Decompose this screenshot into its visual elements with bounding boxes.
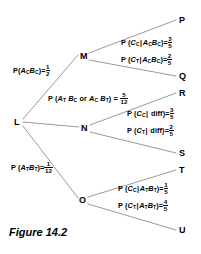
subscript-C: C: [74, 97, 78, 103]
symbol-B: B: [151, 55, 156, 64]
conditional-bar: |: [146, 109, 149, 118]
subscript-T: T: [26, 166, 29, 172]
node-T: T: [179, 166, 185, 175]
figure-caption-text: Figure 14.2: [9, 226, 67, 238]
node-O-label: O: [79, 195, 86, 205]
subscript-C: C: [133, 187, 137, 193]
prob-label-p-at-bt: P (ATBT)=112: [11, 161, 53, 175]
subscript-T: T: [145, 204, 148, 210]
fraction-denominator: 5: [169, 131, 174, 137]
subscript-C: C: [94, 97, 98, 103]
subscript-C: C: [26, 69, 30, 75]
fraction: 25: [167, 53, 172, 67]
symbol-B: B: [68, 94, 73, 103]
prob-prefix: P: [127, 126, 132, 135]
fraction-denominator: 12: [120, 99, 128, 105]
prob-label-p-cc-given-diff: P (CC| diff)=35: [127, 107, 174, 121]
diff-keyword: diff: [151, 109, 163, 118]
node-M: M: [80, 52, 88, 61]
subscript-T: T: [142, 129, 145, 135]
node-N: N: [81, 124, 88, 133]
fraction-denominator: 12: [44, 168, 52, 174]
node-R: R: [179, 89, 186, 98]
prob-prefix: P: [11, 163, 16, 172]
edge-L-N: [23, 122, 79, 127]
or-keyword: or: [79, 94, 87, 103]
subscript-C: C: [142, 112, 146, 118]
fraction: 25: [169, 124, 174, 138]
prob-label-p-cc-given-at-bt: P (CC|ATBT)=15: [118, 182, 168, 196]
fraction: 35: [168, 36, 173, 50]
subscript-C: C: [148, 41, 152, 47]
node-N-label: N: [81, 123, 88, 133]
conditional-bar: |: [145, 126, 148, 135]
node-U-label: U: [179, 225, 186, 235]
subscript-T: T: [136, 58, 139, 64]
fraction-denominator: 5: [163, 206, 168, 212]
node-L-label: L: [14, 117, 20, 127]
prob-label-p-cc-given-ac-bc: P (CC|ACBC)=35: [121, 36, 172, 50]
node-S-label: S: [179, 148, 185, 158]
fraction-denominator: 5: [168, 43, 173, 49]
subscript-C: C: [157, 58, 161, 64]
subscript-C: C: [136, 41, 140, 47]
subscript-T: T: [63, 97, 66, 103]
equals-sign: =: [114, 94, 118, 103]
prob-prefix: P: [118, 201, 123, 210]
node-O: O: [79, 196, 86, 205]
prob-prefix: P: [118, 184, 123, 193]
fraction-denominator: 5: [164, 189, 169, 195]
prob-prefix: P: [127, 109, 132, 118]
node-P-label: P: [179, 15, 185, 25]
symbol-A: A: [139, 201, 144, 210]
prob-prefix: P: [121, 55, 126, 64]
node-R-label: R: [179, 88, 186, 98]
prob-label-p-ct-given-diff: P (CT| diff)=25: [127, 124, 174, 138]
node-P: P: [179, 16, 185, 25]
subscript-C: C: [35, 69, 39, 75]
fraction: 15: [164, 182, 169, 196]
prob-prefix: P: [121, 38, 126, 47]
subscript-T: T: [133, 204, 136, 210]
fraction: 12: [46, 64, 51, 78]
symbol-A: A: [142, 55, 147, 64]
node-M-label: M: [80, 51, 88, 61]
fraction: 35: [170, 107, 175, 121]
symbol-B: B: [148, 184, 153, 193]
probability-tree-figure: L M N O P Q R S T U P(ACBC)=12 P (AT BC …: [0, 0, 201, 254]
subscript-T: T: [154, 187, 157, 193]
prob-label-p-ct-given-ac-bc: P (CT|ACBC)=25: [121, 53, 172, 67]
node-Q: Q: [179, 72, 186, 81]
symbol-B: B: [100, 94, 105, 103]
node-Q-label: Q: [179, 71, 186, 81]
node-T-label: T: [179, 165, 185, 175]
subscript-C: C: [148, 58, 152, 64]
node-L: L: [14, 118, 20, 127]
diff-keyword: diff: [150, 126, 162, 135]
subscript-C: C: [157, 41, 161, 47]
fraction-denominator: 5: [167, 60, 172, 66]
figure-caption: Figure 14.2: [9, 226, 67, 238]
subscript-T: T: [145, 187, 148, 193]
node-S: S: [179, 149, 185, 158]
subscript-T: T: [34, 166, 37, 172]
fraction-denominator: 5: [170, 114, 175, 120]
subscript-T: T: [153, 204, 156, 210]
fraction: 45: [163, 199, 168, 213]
node-U: U: [179, 226, 186, 235]
prob-label-p-ac-bc: P(ACBC)=12: [13, 64, 50, 78]
fraction: 112: [44, 161, 52, 175]
subscript-T: T: [106, 97, 109, 103]
paren-close: ): [109, 94, 112, 103]
prob-label-p-at-bc-or-ac-bt: P (AT BC or AC BT) = 512: [48, 92, 128, 106]
fraction: 512: [120, 92, 128, 106]
prob-label-p-ct-given-at-bt: P (CT|ATBT)=45: [118, 199, 168, 213]
fraction-denominator: 2: [46, 71, 51, 77]
prob-prefix: P: [48, 94, 53, 103]
